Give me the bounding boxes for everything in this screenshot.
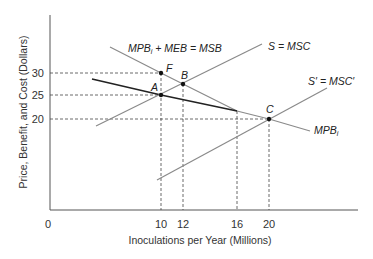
point-f [159,71,163,75]
label-a: A [150,81,158,93]
label-b: B [181,69,188,81]
x-tick-16: 16 [231,218,243,230]
y-tick-25: 25 [32,89,44,101]
msc-prime-curve [157,88,327,180]
x-tick-20: 20 [263,218,275,230]
label-msc: S = MSC [268,40,311,52]
label-f: F [166,62,173,74]
point-b [181,82,185,86]
msb-curve [110,47,237,111]
label-msb: MPBi + MEB = MSB [128,42,222,55]
x-tick-0: 0 [45,218,51,230]
y-axis-label: Price, Benefit, and Cost (Dollars) [17,36,29,189]
label-mpb: MPBi [314,124,339,137]
x-axis-label: Inoculations per Year (Millions) [129,234,272,246]
x-tick-12: 12 [177,218,189,230]
label-c: C [266,103,274,115]
point-a [159,93,163,97]
x-tick-10: 10 [155,218,167,230]
mpb-curve [92,79,237,111]
y-tick-30: 30 [32,67,44,79]
point-c [267,117,271,121]
label-msc-prime: S′ = MSC′ [308,75,355,87]
y-tick-20: 20 [32,113,44,125]
chart: F A B C MPBi + MEB = MSB S = MSC S′ = MS… [0,0,373,259]
